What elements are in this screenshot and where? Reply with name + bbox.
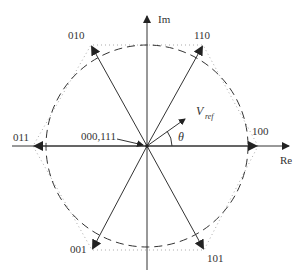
vector-label-100: 100 (252, 125, 269, 137)
vector-label-101: 101 (207, 252, 224, 264)
vector-001 (93, 146, 147, 248)
vector-110 (147, 47, 202, 146)
vref-subscript: ref (205, 112, 215, 121)
vector-label-011: 011 (13, 131, 29, 143)
vref-label: V (196, 104, 205, 118)
zero-vector-pointer (117, 139, 143, 145)
imag-axis-label: Im (158, 13, 171, 25)
hexagon-boundary (33, 45, 258, 250)
vector-label-110: 110 (194, 29, 211, 41)
vector-101 (147, 146, 203, 248)
origin-point (145, 144, 149, 148)
theta-arc (167, 131, 172, 146)
zero-vectors-label: 000,111 (81, 130, 116, 142)
vector-label-001: 001 (70, 243, 87, 255)
vector-label-010: 010 (68, 29, 85, 41)
space-vector-diagram: Im Re 110 010 100 011 001 101 000,111 V … (0, 0, 304, 280)
theta-label: θ (178, 130, 184, 144)
real-axis-label: Re (280, 154, 292, 166)
